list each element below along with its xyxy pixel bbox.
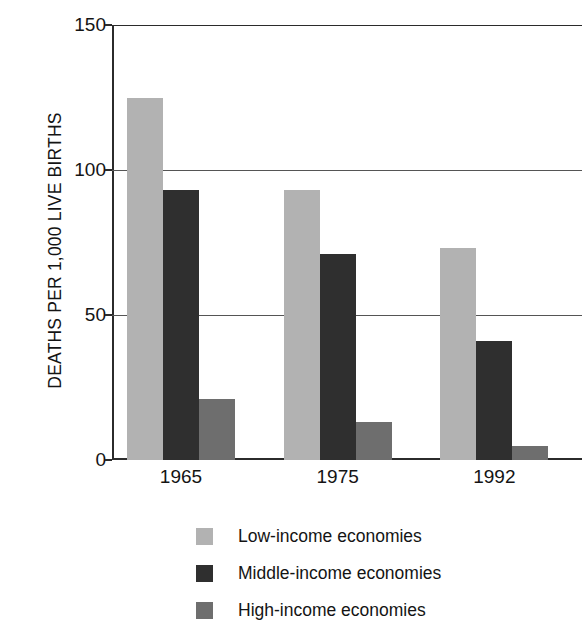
plot-area — [112, 25, 582, 460]
y-tick-label-0: 0 — [46, 449, 106, 471]
bar-1965-middle-income-economies — [163, 190, 199, 460]
bar-1992-high-income-economies — [512, 446, 548, 461]
bar-1975-high-income-economies — [356, 422, 392, 460]
legend-item-label: Middle-income economies — [238, 563, 441, 584]
plot-top-border — [112, 25, 582, 26]
y-axis-tick-group: 050100150 — [0, 0, 106, 630]
y-tick-mark-0 — [105, 459, 112, 460]
legend-item-label: Low-income economies — [238, 526, 422, 547]
y-axis-line — [112, 25, 114, 460]
y-tick-label-150: 150 — [46, 14, 106, 36]
legend-item: High-income economies — [196, 592, 582, 629]
y-tick-label-50: 50 — [46, 304, 106, 326]
bar-1975-low-income-economies — [284, 190, 320, 460]
y-tick-mark-50 — [105, 314, 112, 315]
x-tick-label-1975: 1975 — [278, 466, 398, 488]
bar-1965-high-income-economies — [199, 399, 235, 460]
bar-1975-middle-income-economies — [320, 254, 356, 460]
legend-swatch-low-icon — [196, 528, 213, 545]
bar-1992-low-income-economies — [440, 248, 476, 460]
infant-mortality-bar-chart: DEATHS PER 1,000 LIVE BIRTHS 050100150 1… — [0, 0, 582, 630]
x-axis-tick-group: 196519751992 — [112, 466, 582, 498]
legend-swatch-high-icon — [196, 602, 213, 619]
gridline-100 — [112, 170, 582, 171]
y-tick-mark-150 — [105, 24, 112, 25]
legend-swatch-middle-icon — [196, 565, 213, 582]
chart-legend: Low-income economiesMiddle-income econom… — [196, 518, 582, 629]
legend-item-label: High-income economies — [238, 600, 426, 621]
bar-1992-middle-income-economies — [476, 341, 512, 460]
x-tick-label-1992: 1992 — [434, 466, 554, 488]
y-tick-mark-100 — [105, 169, 112, 170]
y-tick-label-100: 100 — [46, 159, 106, 181]
legend-item: Low-income economies — [196, 518, 582, 555]
legend-item: Middle-income economies — [196, 555, 582, 592]
x-tick-label-1965: 1965 — [121, 466, 241, 488]
bar-1965-low-income-economies — [127, 98, 163, 461]
